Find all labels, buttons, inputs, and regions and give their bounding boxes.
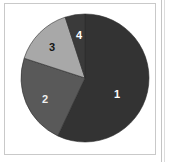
pie-slice-label-3: 3 [49, 41, 55, 53]
pie-slice-label-2: 2 [42, 93, 48, 105]
pie-chart[interactable]: 1234 [0, 0, 169, 162]
screenshot-root: 1234 [0, 0, 169, 162]
pie-slice-label-1: 1 [114, 88, 120, 100]
panel-divider-line [161, 0, 162, 162]
pie-slice-label-4: 4 [76, 29, 83, 41]
panel-divider-line-secondary [164, 0, 165, 162]
pie-slice-group [21, 14, 149, 142]
